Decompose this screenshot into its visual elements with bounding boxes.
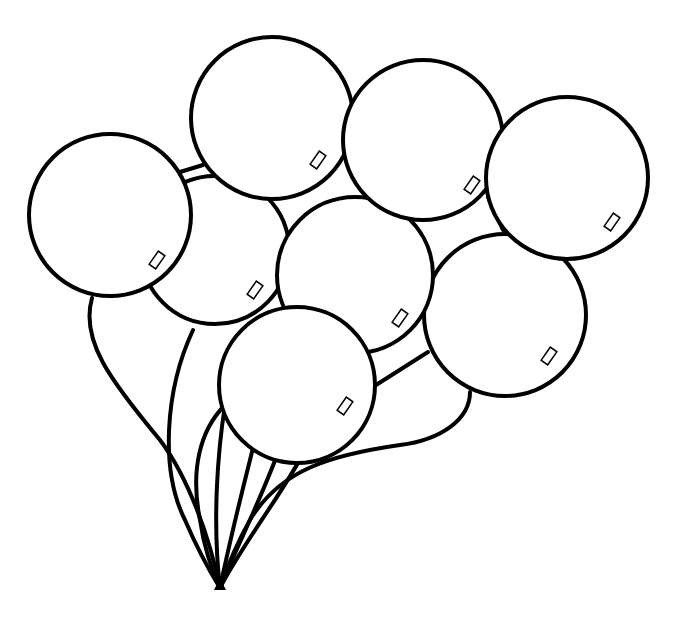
balloon-right bbox=[486, 97, 648, 259]
balloon-illustration bbox=[0, 0, 673, 623]
balloon-top-right bbox=[343, 60, 503, 220]
balloons bbox=[29, 37, 648, 463]
balloon-bottom-center bbox=[219, 307, 375, 463]
balloon-top-center bbox=[191, 37, 353, 199]
balloon-left bbox=[29, 134, 191, 296]
